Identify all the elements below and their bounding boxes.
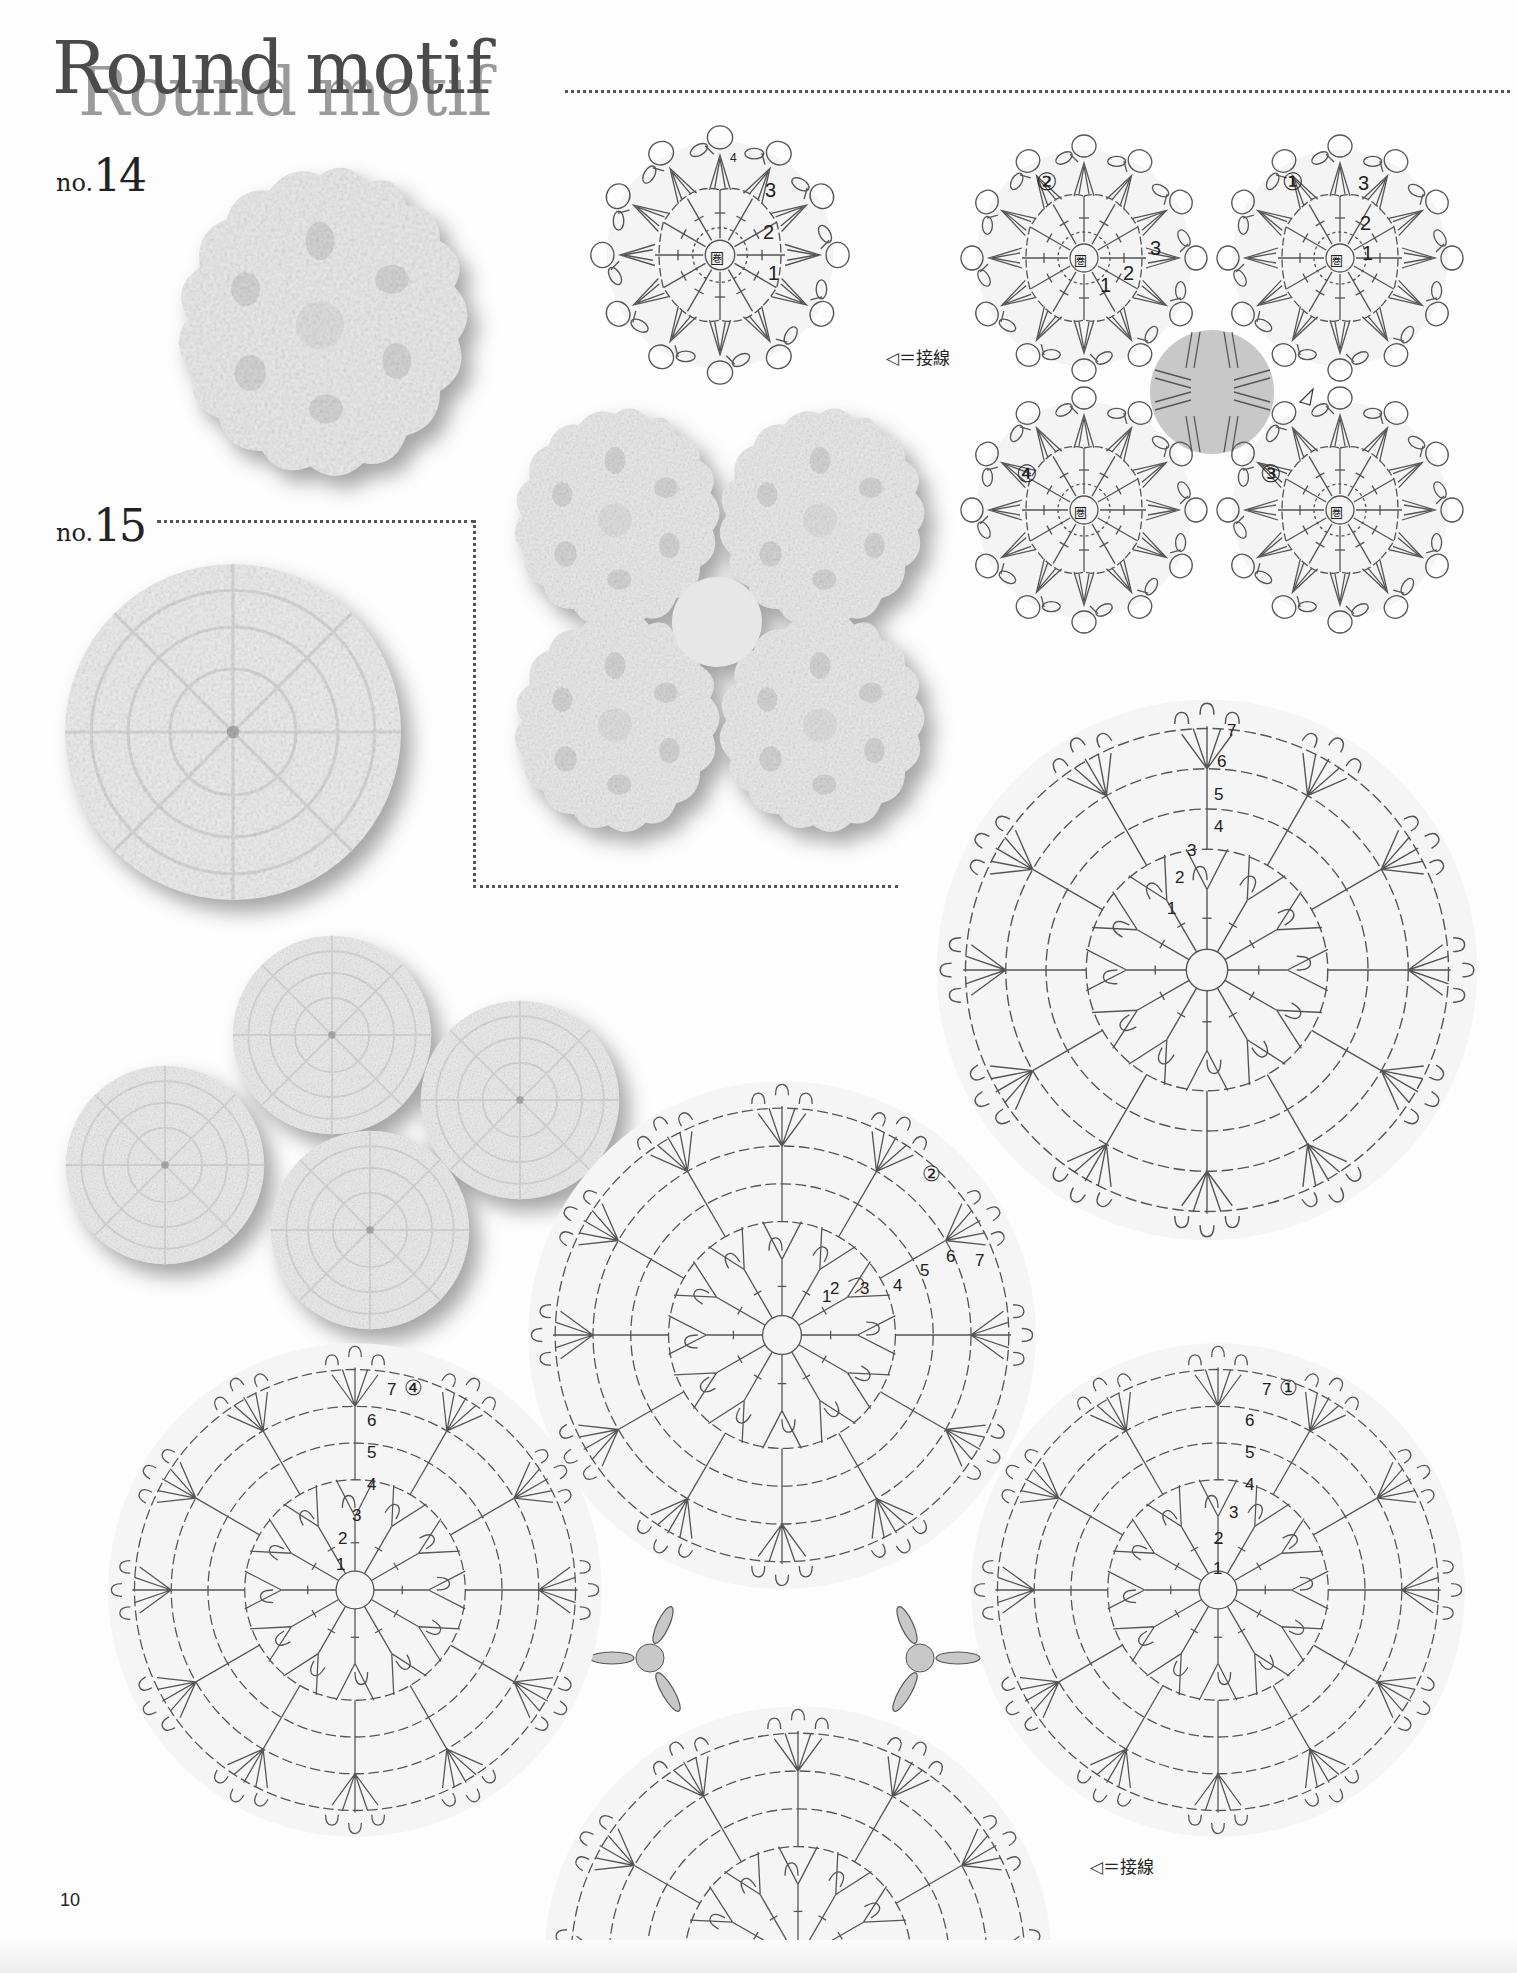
page-number: 10	[60, 1890, 80, 1911]
svg-text:7: 7	[387, 1380, 396, 1399]
svg-text:①: ①	[1282, 168, 1304, 195]
svg-text:4: 4	[730, 151, 737, 165]
svg-text:3: 3	[1150, 237, 1161, 259]
svg-text:7: 7	[1262, 1380, 1271, 1399]
page-title-text: Round motif	[52, 26, 491, 110]
svg-text:1: 1	[768, 262, 779, 284]
svg-text:圏: 圏	[1330, 505, 1343, 520]
svg-text:2: 2	[1360, 212, 1371, 234]
svg-text:④: ④	[404, 1376, 423, 1399]
svg-text:5: 5	[367, 1443, 376, 1462]
svg-text:4: 4	[367, 1475, 376, 1494]
join-triangle-icon: ◁	[886, 348, 899, 369]
svg-text:4: 4	[893, 1276, 902, 1295]
no14-joined-chart: ② ① ③ ④ 圏 圏 圏 圏 3 2 1 3 2 1	[960, 110, 1517, 630]
svg-text:5: 5	[920, 1261, 929, 1280]
svg-text:5: 5	[1214, 785, 1223, 804]
svg-text:6: 6	[367, 1411, 376, 1430]
no14-joined-photo	[505, 410, 935, 840]
no15-dotted-rule-side	[473, 520, 476, 888]
svg-text:圏: 圏	[1074, 253, 1087, 268]
svg-text:2: 2	[1214, 1529, 1223, 1548]
svg-text:②: ②	[922, 1162, 941, 1185]
svg-text:②: ②	[1036, 168, 1058, 195]
svg-text:7: 7	[1227, 721, 1236, 740]
no14-legend: ◁＝接線	[886, 344, 950, 369]
svg-text:圏: 圏	[1330, 253, 1343, 268]
join-triangle-icon: ◁	[1090, 1857, 1103, 1878]
svg-text:1: 1	[1213, 1559, 1222, 1578]
svg-text:2: 2	[1175, 868, 1184, 887]
svg-text:4: 4	[1214, 817, 1223, 836]
svg-text:6: 6	[946, 1247, 955, 1266]
page-title: Round motif Round motif	[44, 22, 604, 132]
svg-text:3: 3	[1187, 841, 1196, 860]
no15-single-photo	[50, 535, 430, 915]
svg-text:①: ①	[1279, 1376, 1298, 1399]
svg-text:6: 6	[1245, 1411, 1254, 1430]
svg-text:1: 1	[336, 1555, 345, 1574]
svg-text:3: 3	[765, 179, 776, 201]
svg-text:7: 7	[975, 1251, 984, 1270]
svg-text:6: 6	[1217, 752, 1226, 771]
join-center-area	[1150, 330, 1274, 454]
svg-text:3: 3	[352, 1506, 361, 1525]
join-connectors	[590, 1604, 980, 1714]
motif-number-14: no.14	[56, 150, 145, 201]
svg-text:5: 5	[1245, 1443, 1254, 1462]
no15-joined-chart: ② 1 2 3 4 5 6 7 ④ 7 6 5 4 3 2 1 ① 7 6 5 …	[0, 1080, 1517, 1973]
no14-single-photo	[135, 140, 495, 500]
svg-text:圏: 圏	[710, 250, 724, 266]
svg-text:1: 1	[1362, 242, 1373, 264]
page-bottom-edge	[0, 1940, 1517, 1973]
svg-text:3: 3	[1358, 172, 1369, 194]
join-triangle-icon	[1300, 389, 1313, 405]
svg-text:2: 2	[338, 1529, 347, 1548]
no15-legend: ◁＝接線	[1090, 1853, 1154, 1878]
svg-text:2: 2	[830, 1279, 839, 1298]
svg-text:③: ③	[1260, 460, 1282, 487]
svg-text:④: ④	[1016, 460, 1038, 487]
svg-text:3: 3	[860, 1279, 869, 1298]
svg-text:2: 2	[763, 221, 774, 243]
no14-single-chart: 4 3 2 1 圏	[575, 115, 875, 405]
svg-text:4: 4	[1245, 1475, 1254, 1494]
no15-dotted-rule-top	[157, 520, 475, 523]
svg-text:圏: 圏	[1074, 505, 1087, 520]
title-dotted-rule	[565, 90, 1510, 93]
svg-text:1: 1	[1100, 274, 1111, 296]
svg-text:1: 1	[1167, 899, 1176, 918]
no15-dotted-rule-bottom	[473, 885, 898, 888]
svg-text:3: 3	[1229, 1503, 1238, 1522]
svg-text:2: 2	[1123, 262, 1134, 284]
